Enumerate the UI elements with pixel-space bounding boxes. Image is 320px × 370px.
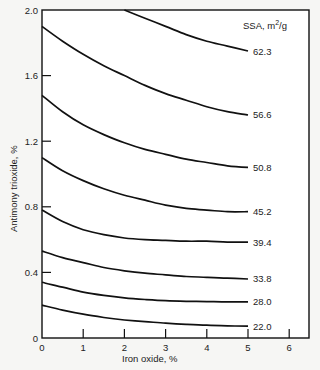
y-tick-label: 0.8	[25, 201, 38, 212]
y-tick-label: 1.2	[25, 136, 38, 147]
x-tick-label: 6	[287, 342, 292, 353]
series-label-56-6: 56.6	[253, 109, 272, 120]
y-tick-label: 1.6	[25, 70, 38, 81]
y-tick-label: 0	[33, 333, 38, 344]
y-tick-label: 2.0	[25, 5, 38, 16]
series-label-28-0: 28.0	[253, 296, 272, 307]
x-tick-label: 4	[204, 342, 209, 353]
series-label-62-3: 62.3	[253, 46, 272, 57]
y-axis-label: Antimony trioxide, %	[8, 145, 19, 232]
series-label-33-8: 33.8	[253, 273, 272, 284]
x-tick-label: 1	[81, 342, 86, 353]
series-label-39-4: 39.4	[253, 237, 272, 248]
y-tick-label: 0.4	[25, 267, 38, 278]
plot-frame	[42, 10, 309, 338]
series-label-50-8: 50.8	[253, 162, 272, 173]
contour-chart: 0123456 00.40.81.21.62.0 62.356.650.845.…	[0, 0, 320, 370]
x-tick-label: 3	[163, 342, 168, 353]
series-label-22-0: 22.0	[253, 321, 272, 332]
x-tick-label: 5	[245, 342, 250, 353]
x-axis-label: Iron oxide, %	[122, 353, 178, 364]
legend-title: SSA, m2/g	[243, 19, 287, 31]
x-tick-label: 2	[122, 342, 127, 353]
series-label-45-2: 45.2	[253, 206, 272, 217]
x-tick-label: 0	[39, 342, 44, 353]
